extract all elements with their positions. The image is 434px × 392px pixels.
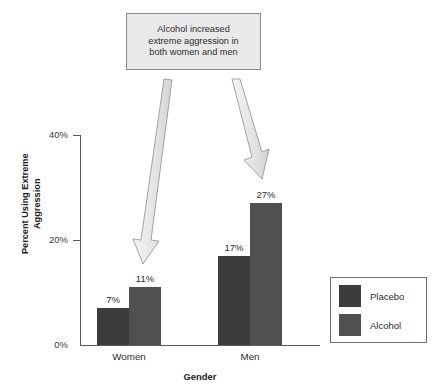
y-axis-title-line-1: Percent Using Extreme [20, 134, 32, 274]
callout-line-2: extreme aggression in [148, 36, 238, 48]
y-tick-20 [73, 240, 80, 241]
x-category-label-women: Women [99, 351, 159, 362]
arrow-to-men-alcohol [232, 79, 269, 179]
legend-swatch-alcohol [339, 314, 361, 336]
bar-label-men-placebo: 17% [214, 242, 254, 253]
callout-line-3: both women and men [149, 47, 237, 59]
legend-item-placebo: Placebo [339, 285, 404, 307]
legend-item-alcohol: Alcohol [339, 314, 401, 336]
y-axis-title: Percent Using Extreme Aggression [20, 134, 44, 274]
legend-swatch-placebo [339, 285, 361, 307]
legend: Placebo Alcohol [330, 277, 427, 343]
bar-men-placebo [218, 256, 250, 345]
y-tick-40 [73, 135, 80, 136]
bar-women-placebo [97, 308, 129, 345]
callout-line-1: Alcohol increased [157, 24, 230, 36]
x-category-label-men: Men [220, 351, 280, 362]
x-axis-line [80, 345, 320, 346]
bar-men-alcohol [250, 203, 282, 345]
bar-women-alcohol [129, 287, 161, 345]
annotation-callout-box: Alcohol increased extreme aggression in … [126, 13, 261, 70]
arrow-to-women-alcohol [133, 79, 172, 264]
y-axis-title-line-2: Aggression [32, 134, 44, 274]
y-axis-line [80, 135, 81, 346]
legend-label-alcohol: Alcohol [370, 320, 401, 331]
bar-label-men-alcohol: 27% [246, 189, 286, 200]
bar-label-women-alcohol: 11% [125, 273, 165, 284]
legend-label-placebo: Placebo [370, 291, 404, 302]
chart-figure: Alcohol increased extreme aggression in … [0, 0, 434, 392]
y-tick-label-0: 0% [24, 339, 68, 350]
bar-label-women-placebo: 7% [93, 294, 133, 305]
x-axis-title: Gender [80, 371, 320, 382]
